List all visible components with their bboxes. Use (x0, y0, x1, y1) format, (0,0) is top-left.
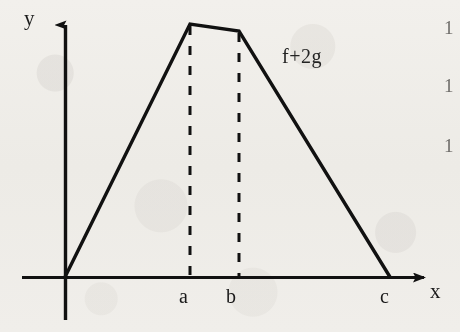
y-axis-label: y (24, 8, 35, 29)
x-tick-label-a: a (179, 286, 188, 306)
margin-line-number-1: 1 (444, 18, 454, 37)
curve-label-f-plus-2g: f+2g (282, 46, 322, 66)
x-axis-label: x (430, 281, 441, 302)
figure-canvas: y x a b c f+2g 1 1 1 (0, 0, 460, 332)
margin-line-number-3: 1 (444, 136, 454, 155)
x-tick-label-b: b (226, 286, 236, 306)
margin-line-number-2: 1 (444, 76, 454, 95)
curve-f-plus-2g (65, 24, 390, 277)
x-tick-label-c: c (380, 286, 389, 306)
plot-graphic (0, 0, 460, 332)
